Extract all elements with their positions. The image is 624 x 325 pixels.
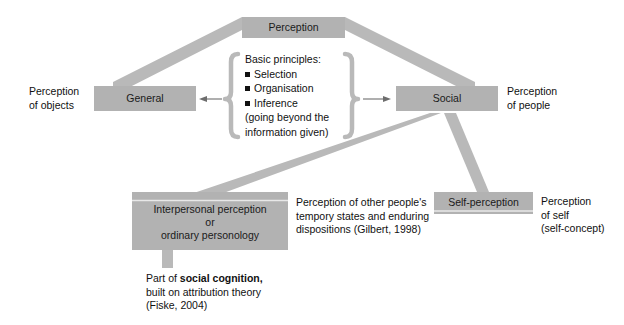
self-line-2: of self xyxy=(541,209,605,223)
basic-principles-block: Basic principles: Selection Organisation… xyxy=(245,52,329,139)
bullet-square-icon xyxy=(245,72,250,77)
social-cognition-note-line-2: built on attribution theory xyxy=(146,286,263,300)
interpersonal-note-line-2: tempory states and enduring xyxy=(296,210,429,224)
self-line-3: (self-concept) xyxy=(541,222,605,236)
note-interpersonal-description: Perception of other people's tempory sta… xyxy=(296,196,429,237)
principle-label-selection: Selection xyxy=(254,68,297,80)
box-general[interactable] xyxy=(94,86,196,111)
side-label-perception-of-people: Perception of people xyxy=(507,85,557,112)
principle-item-inference: Inference xyxy=(245,96,329,111)
interpersonal-note-line-1: Perception of other people's xyxy=(296,196,429,210)
principles-parenthetical-line-2: information given) xyxy=(245,125,329,140)
principle-item-selection: Selection xyxy=(245,67,329,82)
people-line-1: Perception xyxy=(507,85,557,99)
self-line-1: Perception xyxy=(541,195,605,209)
people-line-2: of people xyxy=(507,99,557,113)
band-social-to-self-perception xyxy=(444,113,489,192)
arrow-left-icon xyxy=(199,96,222,102)
box-social[interactable] xyxy=(396,86,498,111)
right-curly-brace-icon xyxy=(345,54,358,137)
bullet-square-icon xyxy=(245,86,250,91)
objects-line-1: Perception xyxy=(29,85,79,99)
principle-item-organisation: Organisation xyxy=(245,81,329,96)
interpersonal-note-line-3: dispositions (Gilbert, 1998) xyxy=(296,223,429,237)
side-label-perception-of-objects: Perception of objects xyxy=(29,85,79,112)
social-cognition-note-line-3: (Fiske, 2004) xyxy=(146,299,263,313)
left-curly-brace-icon xyxy=(225,54,238,137)
side-label-perception-of-self: Perception of self (self-concept) xyxy=(541,195,605,236)
perception-hierarchy-diagram: Perception General Social Interpersonal … xyxy=(0,0,624,325)
objects-line-2: of objects xyxy=(29,99,79,113)
principle-label-organisation: Organisation xyxy=(254,82,314,94)
diagram-canvas xyxy=(0,0,624,325)
band-interpersonal-to-note xyxy=(162,248,173,268)
principles-heading: Basic principles: xyxy=(245,52,329,67)
principle-label-inference: Inference xyxy=(254,97,298,109)
arrow-right-icon xyxy=(363,96,391,102)
bullet-square-icon xyxy=(245,101,250,106)
social-cognition-prefix: Part of xyxy=(146,272,180,284)
principles-parenthetical-line-1: (going beyond the xyxy=(245,110,329,125)
note-social-cognition: Part of social cognition, built on attri… xyxy=(146,272,263,313)
social-cognition-bold-term: social cognition, xyxy=(180,272,263,284)
box-perception[interactable] xyxy=(242,17,345,38)
social-cognition-note-line-1: Part of social cognition, xyxy=(146,272,263,286)
